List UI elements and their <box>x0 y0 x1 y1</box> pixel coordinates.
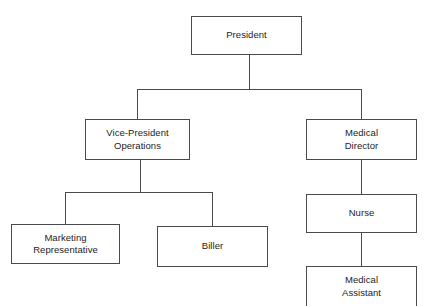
node-vice-president-operations[interactable]: Vice-President Operations <box>85 119 190 160</box>
connector-nurse-to-medical-assistant <box>361 233 362 266</box>
connector-president-bus <box>137 89 362 90</box>
connector-vice-president-operations-stem <box>140 160 141 192</box>
node-nurse[interactable]: Nurse <box>306 194 417 233</box>
node-president-label: President <box>223 29 270 42</box>
connector-medical-director-to-nurse <box>361 160 362 194</box>
node-medical-assistant[interactable]: Medical Assistant <box>306 266 417 306</box>
node-president[interactable]: President <box>191 16 302 55</box>
connector-vice-president-operations-bus <box>65 192 213 193</box>
node-medical-assistant-label: Medical Assistant <box>339 274 384 299</box>
node-medical-director-label: Medical Director <box>342 127 382 152</box>
connector-to-biller <box>212 192 213 226</box>
node-vice-president-operations-label: Vice-President Operations <box>103 127 171 152</box>
connector-to-vice-president-operations <box>137 89 138 119</box>
node-nurse-label: Nurse <box>346 207 378 220</box>
node-medical-director[interactable]: Medical Director <box>306 119 417 160</box>
connector-to-medical-director <box>361 89 362 119</box>
node-biller-label: Biller <box>199 240 226 253</box>
node-biller[interactable]: Biller <box>157 226 268 267</box>
org-chart: President Vice-President Operations Medi… <box>0 0 425 306</box>
node-marketing-representative[interactable]: Marketing Representative <box>11 224 120 264</box>
node-marketing-representative-label: Marketing Representative <box>30 232 101 257</box>
connector-president-stem <box>249 55 250 90</box>
connector-to-marketing-representative <box>65 192 66 224</box>
